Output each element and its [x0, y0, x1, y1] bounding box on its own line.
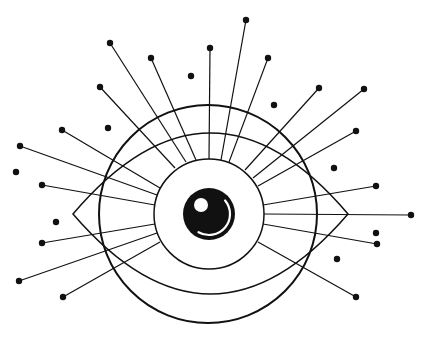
ray-line [264, 214, 411, 215]
ray-line [263, 224, 377, 244]
ray-line [258, 242, 356, 297]
ray-end-dot [39, 240, 45, 246]
ray-line [229, 58, 268, 162]
ray-line [209, 48, 210, 159]
ray-end-dot [17, 143, 23, 149]
ray-line [253, 89, 364, 178]
ray-end-dot [353, 128, 359, 134]
loose-dot [334, 256, 340, 262]
ray-end-dot [243, 17, 249, 23]
loose-dot [271, 102, 277, 108]
ray-end-dot [374, 241, 380, 247]
loose-dot [53, 219, 59, 225]
ray-end-dot [39, 182, 45, 188]
ray-end-dot [16, 278, 22, 284]
ray-end-dot [361, 86, 367, 92]
ray-end-dot [408, 212, 414, 218]
ray-line [263, 186, 376, 205]
pupil [183, 188, 235, 240]
ray-end-dot [316, 85, 322, 91]
ray-end-dot [148, 55, 154, 61]
loose-dot [105, 125, 111, 131]
ray-line [221, 20, 246, 160]
ray-line [19, 233, 157, 281]
eye-drawing [0, 0, 432, 347]
ray-line [63, 242, 160, 297]
loose-dot [188, 73, 194, 79]
ray-end-dot [207, 45, 213, 51]
ray-end-dot [60, 294, 66, 300]
ray-end-dot [373, 183, 379, 189]
ray-line [110, 43, 186, 162]
ray-line [62, 130, 160, 188]
ray-end-dot [265, 55, 271, 61]
ray-end-dot [353, 294, 359, 300]
loose-dot [331, 165, 337, 171]
loose-dot [13, 169, 19, 175]
ray-end-dot [97, 84, 103, 90]
ray-end-dot [59, 127, 65, 133]
pupil-highlight [194, 198, 208, 212]
ray-end-dot [107, 40, 113, 46]
eye-illustration [0, 0, 432, 347]
loose-dot [373, 230, 379, 236]
